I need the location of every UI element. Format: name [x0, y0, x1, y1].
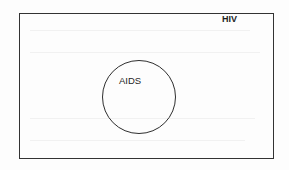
aids-label: AIDS — [119, 76, 141, 86]
hiv-label: HIV — [222, 15, 237, 24]
venn-diagram: HIV AIDS — [0, 0, 289, 170]
aids-set-circle — [102, 60, 176, 134]
